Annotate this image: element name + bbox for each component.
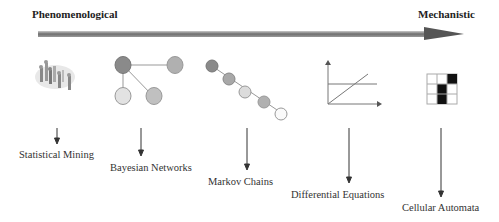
diagram-canvas [0,0,499,222]
grid-cells-icon [427,74,457,104]
arrow-down-markov-icon [245,128,250,170]
method-label-markov-chains: Markov Chains [208,176,273,187]
method-label-statistical-mining: Statistical Mining [19,149,94,160]
arrow-down-differential-icon [347,128,352,183]
arrow-down-cellular-icon [439,128,444,197]
network-graph-icon [115,57,183,105]
method-label-differential-equations: Differential Equations [291,189,384,200]
line-graph-icon [325,60,382,107]
spectrum-arrow [38,27,464,40]
chain-nodes-icon [206,60,287,120]
method-label-bayesian-networks: Bayesian Networks [110,162,192,173]
arrow-down-statistical-icon [55,128,60,144]
method-label-cellular-automata: Cellular Automata [402,202,479,213]
arrow-down-bayesian-icon [139,128,144,156]
scatter-cloud-icon [35,60,75,90]
